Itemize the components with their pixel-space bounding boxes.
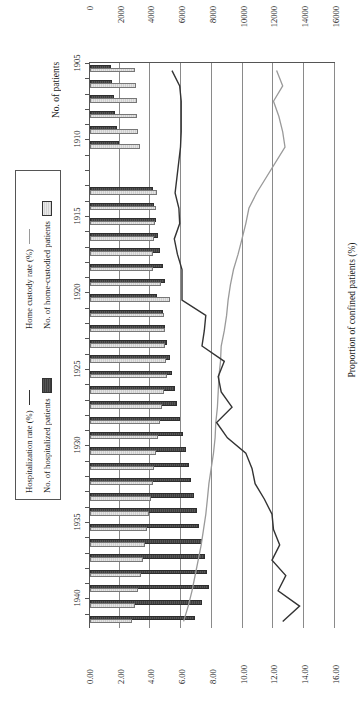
x-tick (85, 445, 89, 446)
legend-swatch-bar-light-icon (42, 201, 52, 216)
x-tick (85, 522, 89, 523)
legend-label-home-custody-rate: Home custody rate (%) (24, 249, 34, 329)
secondary-y-tick-label: 4.00 (147, 628, 157, 690)
x-tick (85, 247, 89, 248)
x-tick (85, 292, 89, 293)
x-tick-label: 1935 (72, 507, 82, 537)
x-tick (85, 201, 89, 202)
secondary-y-tick-label: 0.00 (85, 628, 95, 690)
legend-column-right: No. of home-custodied patients Home cust… (20, 179, 56, 329)
x-tick (85, 461, 89, 462)
legend-swatch-bar-dark-icon (42, 378, 52, 393)
x-tick (85, 170, 89, 171)
secondary-y-tick-label: 12.00 (270, 628, 280, 690)
x-tick (85, 400, 89, 401)
y-tick-label: 16000 (331, 0, 341, 62)
x-tick (85, 491, 89, 492)
x-tick (85, 537, 89, 538)
y-tick-label: 12000 (270, 0, 280, 62)
x-tick-label: 1910 (72, 124, 82, 154)
x-tick (85, 553, 89, 554)
x-tick (85, 216, 89, 217)
legend-label-home-custodied: No. of home-custodied patients (42, 221, 52, 329)
x-tick-label: 1925 (72, 354, 82, 384)
legend-item-hospitalized: No. of hospitalized patients (38, 343, 56, 493)
x-tick (85, 384, 89, 385)
x-tick (85, 63, 89, 64)
legend-label-hospitalization-rate: Hospitalization rate (%) (24, 410, 34, 493)
y-tick-label: 0 (85, 0, 95, 62)
x-tick (85, 124, 89, 125)
y-tick-label: 8000 (208, 0, 218, 62)
legend-item-hospitalization-rate: Hospitalization rate (%) (20, 343, 38, 493)
x-tick-label: 1940 (72, 583, 82, 613)
y-tick-label: 2000 (116, 0, 126, 62)
x-tick (85, 109, 89, 110)
x-tick (85, 277, 89, 278)
figure-rotation-wrapper: 0200040006000800010000120001400016000 0.… (0, 0, 361, 711)
legend-label-hospitalized: No. of hospitalized patients (42, 398, 52, 493)
legend-item-home-custody-rate: Home custody rate (%) (20, 179, 38, 329)
y-tick-label: 4000 (147, 0, 157, 62)
x-tick-label: 1915 (72, 201, 82, 231)
y-tick-label: 6000 (177, 0, 187, 62)
x-tick (85, 262, 89, 263)
x-tick (85, 185, 89, 186)
x-tick-label: 1920 (72, 277, 82, 307)
secondary-y-tick-label: 16.00 (331, 628, 341, 690)
line-series-container (89, 63, 335, 629)
secondary-y-tick-label: 6.00 (177, 628, 187, 690)
y-tick-label: 10000 (239, 0, 249, 62)
x-tick (85, 78, 89, 79)
chart-figure: 0200040006000800010000120001400016000 0.… (0, 0, 361, 711)
secondary-y-tick-label: 2.00 (116, 628, 126, 690)
x-tick (85, 476, 89, 477)
x-tick (85, 308, 89, 309)
secondary-y-tick-label: 8.00 (208, 628, 218, 690)
home-custody-rate-line (184, 71, 285, 622)
y-tick-label: 14000 (300, 0, 310, 62)
legend-swatch-line-dark-icon (29, 390, 30, 405)
x-tick (85, 338, 89, 339)
x-tick (85, 94, 89, 95)
x-tick (85, 415, 89, 416)
legend-column-left: No. of hospitalized patients Hospitaliza… (20, 343, 56, 493)
x-tick (85, 568, 89, 569)
y-axis-title: No. of patients (51, 0, 61, 180)
x-tick (85, 323, 89, 324)
secondary-y-tick-label: 10.00 (239, 628, 249, 690)
x-tick (85, 231, 89, 232)
legend-swatch-line-gray-icon (29, 229, 30, 244)
x-tick (85, 583, 89, 584)
legend-item-home-custodied: No. of home-custodied patients (38, 179, 56, 329)
chart-legend: No. of home-custodied patients Home cust… (15, 170, 61, 500)
x-tick (85, 507, 89, 508)
plot-area (89, 62, 335, 628)
secondary-y-axis-title: Proportion of confined patients (%) (347, 160, 357, 460)
x-tick (85, 354, 89, 355)
x-tick-label: 1930 (72, 430, 82, 460)
x-tick (85, 430, 89, 431)
secondary-y-tick-label: 14.00 (300, 628, 310, 690)
x-tick (85, 369, 89, 370)
x-tick (85, 139, 89, 140)
x-tick (85, 155, 89, 156)
x-tick (85, 598, 89, 599)
x-tick-label: 1905 (72, 48, 82, 78)
x-tick (85, 614, 89, 615)
